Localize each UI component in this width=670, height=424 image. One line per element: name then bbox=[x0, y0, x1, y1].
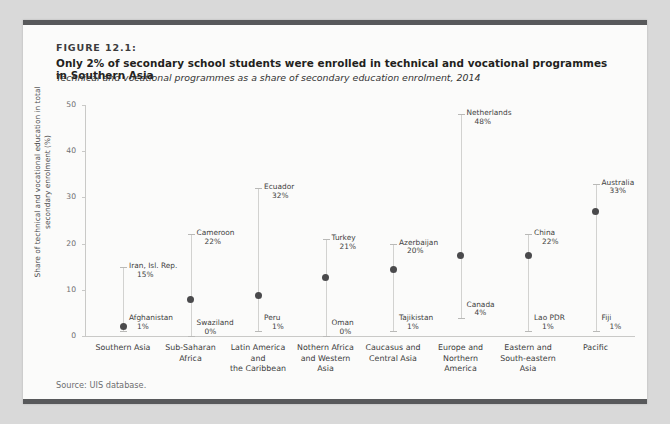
min-value-label: 0% bbox=[197, 328, 217, 337]
y-axis-tick-mark bbox=[82, 151, 85, 152]
min-cap bbox=[323, 336, 330, 337]
x-axis-line bbox=[85, 336, 635, 337]
category-label-line: Africa bbox=[179, 354, 202, 363]
max-country-label: Azerbaijan bbox=[399, 238, 438, 247]
x-axis-category-label: Nothern Africaand Western Asia bbox=[293, 343, 359, 375]
max-value-label: 48% bbox=[467, 118, 491, 127]
max-point-label: Netherlands48% bbox=[467, 109, 512, 127]
y-axis-tick-label: 20 bbox=[56, 239, 76, 248]
figure-panel: FIGURE 12.1: Only 2% of secondary school… bbox=[23, 20, 647, 404]
range-line bbox=[258, 188, 259, 331]
y-axis-tick-mark bbox=[82, 197, 85, 198]
min-value-label: 0% bbox=[332, 328, 352, 337]
range-line bbox=[596, 184, 597, 332]
regional-average-dot bbox=[390, 266, 397, 273]
min-cap bbox=[525, 331, 532, 332]
min-point-label: Tajikistan1% bbox=[399, 314, 433, 332]
max-cap bbox=[390, 244, 397, 245]
min-country-label: Canada bbox=[467, 300, 495, 309]
category-label-line: and Western Asia bbox=[301, 354, 351, 374]
max-cap bbox=[593, 184, 600, 185]
x-axis-category-label: Caucasus andCentral Asia bbox=[360, 343, 426, 364]
x-axis-category-label: Latin America andthe Caribbean bbox=[225, 343, 291, 375]
category-label-line: Eastern and bbox=[504, 343, 551, 352]
category-label-line: the Caribbean bbox=[230, 364, 286, 373]
range-line bbox=[191, 234, 192, 336]
category-label-line: South-eastern bbox=[500, 354, 556, 363]
max-cap bbox=[120, 267, 127, 268]
category-label-line: Latin America and bbox=[231, 343, 286, 363]
y-axis-title: Share of technical and vocational educat… bbox=[33, 78, 53, 286]
max-value-label: 21% bbox=[332, 243, 356, 252]
category-label-line: Sub-Saharan bbox=[165, 343, 216, 352]
max-value-label: 33% bbox=[602, 187, 626, 196]
min-point-label: Peru1% bbox=[264, 314, 284, 332]
max-country-label: Australia bbox=[602, 178, 635, 187]
category-label-line: Nothern Africa bbox=[297, 343, 354, 352]
min-point-label: Canada4% bbox=[467, 301, 495, 319]
max-point-label: Iran, Isl. Rep.15% bbox=[129, 262, 177, 280]
y-axis-tick-label: 30 bbox=[56, 192, 76, 201]
min-point-label: Swaziland0% bbox=[197, 319, 234, 337]
max-country-label: Ecuador bbox=[264, 182, 294, 191]
regional-average-dot bbox=[457, 252, 464, 259]
min-cap bbox=[188, 336, 195, 337]
min-cap bbox=[255, 331, 262, 332]
y-axis-line bbox=[85, 105, 86, 336]
regional-average-dot bbox=[120, 323, 127, 330]
y-axis-tick-mark bbox=[82, 336, 85, 337]
min-point-label: Fiji1% bbox=[602, 314, 622, 332]
regional-average-dot bbox=[525, 252, 532, 259]
max-value-label: 32% bbox=[264, 192, 288, 201]
min-point-label: Oman0% bbox=[332, 319, 354, 337]
min-point-label: Lao PDR1% bbox=[534, 314, 565, 332]
range-line bbox=[393, 244, 394, 332]
min-country-label: Fiji bbox=[602, 313, 612, 322]
x-axis-category-label: Pacific bbox=[563, 343, 629, 354]
regional-average-dot bbox=[322, 274, 329, 281]
regional-average-dot bbox=[187, 296, 194, 303]
category-label-line: Northern America bbox=[443, 354, 478, 374]
min-country-label: Swaziland bbox=[197, 318, 234, 327]
max-cap bbox=[188, 234, 195, 235]
max-country-label: Netherlands bbox=[467, 108, 512, 117]
max-country-label: Turkey bbox=[332, 233, 356, 242]
max-value-label: 20% bbox=[399, 247, 423, 256]
max-cap bbox=[323, 239, 330, 240]
max-country-label: Iran, Isl. Rep. bbox=[129, 261, 177, 270]
max-value-label: 15% bbox=[129, 271, 153, 280]
max-point-label: Cameroon22% bbox=[197, 229, 235, 247]
x-axis-category-label: Eastern andSouth-easternAsia bbox=[495, 343, 561, 375]
y-axis-tick-label: 40 bbox=[56, 146, 76, 155]
min-cap bbox=[390, 331, 397, 332]
max-country-label: Cameroon bbox=[197, 228, 235, 237]
min-point-label: Afghanistan1% bbox=[129, 314, 173, 332]
max-point-label: Azerbaijan20% bbox=[399, 239, 438, 257]
max-cap bbox=[525, 234, 532, 235]
x-axis-category-label: Europe andNorthern America bbox=[428, 343, 494, 375]
y-axis-tick-mark bbox=[82, 290, 85, 291]
category-label-line: Caucasus and bbox=[365, 343, 420, 352]
category-label-line: Southern Asia bbox=[96, 343, 151, 352]
source-note: Source: UIS database. bbox=[56, 380, 146, 390]
min-country-label: Tajikistan bbox=[399, 313, 433, 322]
min-country-label: Lao PDR bbox=[534, 313, 565, 322]
max-cap bbox=[255, 188, 262, 189]
min-value-label: 1% bbox=[602, 323, 622, 332]
range-line bbox=[461, 114, 462, 317]
category-label-line: Central Asia bbox=[369, 354, 417, 363]
range-line bbox=[528, 234, 529, 331]
chart-plot-area: Share of technical and vocational educat… bbox=[23, 20, 647, 404]
min-value-label: 1% bbox=[399, 323, 419, 332]
min-value-label: 1% bbox=[264, 323, 284, 332]
screenshot-root: FIGURE 12.1: Only 2% of secondary school… bbox=[0, 0, 670, 424]
max-country-label: China bbox=[534, 228, 555, 237]
y-axis-tick-mark bbox=[82, 105, 85, 106]
max-value-label: 22% bbox=[534, 238, 558, 247]
y-axis-tick-label: 10 bbox=[56, 285, 76, 294]
max-point-label: Turkey21% bbox=[332, 234, 356, 252]
category-label-line: Europe and bbox=[438, 343, 483, 352]
min-value-label: 1% bbox=[534, 323, 554, 332]
y-axis-tick-mark bbox=[82, 244, 85, 245]
min-value-label: 1% bbox=[129, 323, 149, 332]
